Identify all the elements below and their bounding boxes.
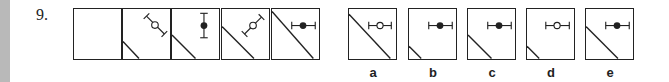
option-c-box[interactable]: [467, 8, 516, 60]
series-box-5: [271, 8, 320, 60]
diagonal-line-large-open-circle-icon: [222, 9, 269, 59]
diagonal-line-medium-filled-circle-icon: [468, 9, 515, 59]
option-c-label[interactable]: c: [466, 65, 518, 80]
option-e-label[interactable]: e: [584, 65, 636, 80]
option-b-box[interactable]: [408, 8, 457, 60]
option-b-label[interactable]: b: [407, 65, 459, 80]
diagonal-line-small-filled-circle-icon: [409, 9, 456, 59]
option-a-label[interactable]: a: [347, 65, 399, 80]
series-box-2: [122, 8, 171, 60]
diagonal-line-medium-filled-circle-icon: [172, 9, 219, 59]
option-d-label[interactable]: d: [525, 65, 577, 80]
diagonal-line-large-filled-circle-icon: [586, 9, 633, 59]
diagonal-line-full-filled-circle-icon: [272, 9, 319, 59]
series-box-3: [171, 8, 220, 60]
diagonal-line-full-open-circle-icon: [349, 9, 396, 59]
option-d-box[interactable]: [526, 8, 575, 60]
option-e-box[interactable]: [585, 8, 634, 60]
diagonal-line-small-open-circle-icon: [123, 9, 170, 59]
option-a-box[interactable]: [348, 8, 397, 60]
diagonal-line-small-open-circle-icon: [527, 9, 574, 59]
page-margin-strip: [0, 0, 10, 82]
question-number: 9.: [36, 6, 48, 24]
series-box-1: [73, 8, 122, 60]
series-box-4: [221, 8, 270, 60]
